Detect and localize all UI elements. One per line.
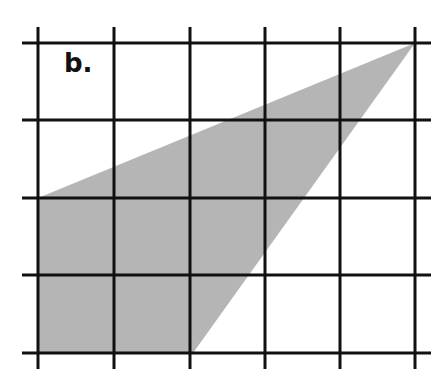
grid-diagram: b. (0, 0, 443, 371)
figure-label: b. (64, 48, 93, 78)
